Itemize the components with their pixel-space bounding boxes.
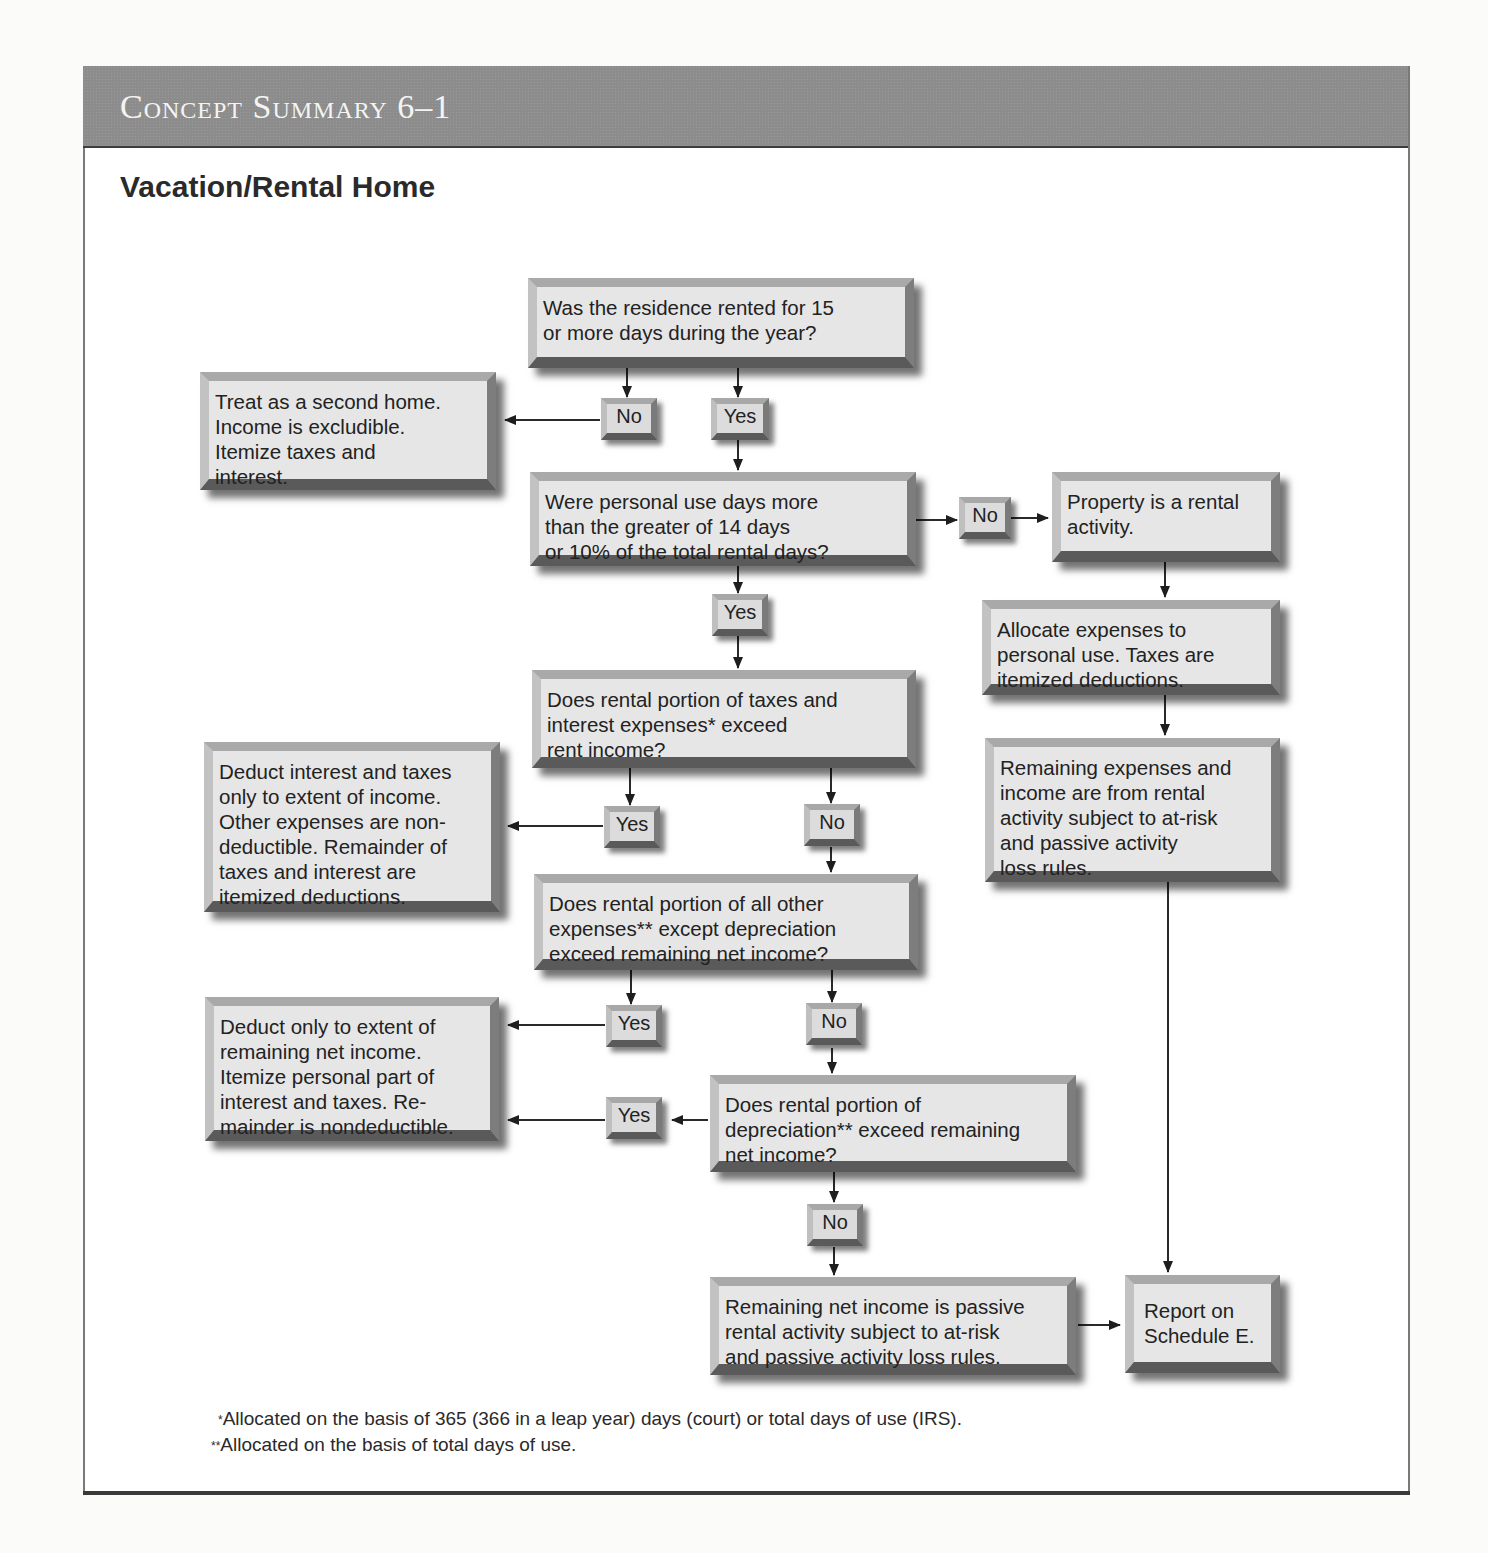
question-depreciation-exceed: Does rental portion of depreciation** ex… [710,1075,1076,1172]
result-rental-activity: Property is a rental activity. [1052,472,1280,562]
result-schedule-e: Report on Schedule E. [1125,1275,1280,1373]
footnote-text: Allocated on the basis of total days of … [220,1434,576,1455]
footnote-text: Allocated on the basis of 365 (366 in a … [223,1408,962,1429]
footnote-single-asterisk: *Allocated on the basis of 365 (366 in a… [218,1408,962,1430]
result-second-home: Treat as a second home. Income is exclud… [200,372,496,490]
result-passive-rental-activity: Remaining net income is passive rental a… [710,1277,1076,1375]
label-q3-no: No [804,804,860,846]
question-personal-use-days: Were personal use days more than the gre… [530,472,916,566]
label-q1-yes: Yes [711,398,769,440]
label-q5-yes: Yes [606,1097,662,1139]
question-rented-15-days: Was the residence rented for 15 or more … [528,278,914,368]
step-allocate-expenses: Allocate expenses to personal use. Taxes… [982,600,1280,695]
footnote-double-asterisk: **Allocated on the basis of total days o… [211,1434,576,1456]
label-q3-yes: Yes [604,806,660,848]
label-q4-yes: Yes [606,1005,662,1047]
label-q5-no: No [807,1204,863,1246]
result-deduct-interest-taxes: Deduct interest and taxes only to extent… [204,742,500,912]
label-q1-no: No [601,398,657,440]
result-remaining-rental-activity: Remaining expenses and income are from r… [985,738,1280,882]
label-q4-no: No [806,1003,862,1045]
label-q2-no: No [959,497,1011,539]
double-asterisk-mark: ** [211,1439,220,1453]
question-other-expenses-exceed: Does rental portion of all other expense… [534,874,918,970]
question-taxes-interest-exceed: Does rental portion of taxes and interes… [532,670,916,768]
panel-bottom-rule [83,1491,1410,1495]
result-deduct-remaining-income: Deduct only to extent of remaining net i… [205,997,499,1141]
label-q2-yes: Yes [712,594,768,636]
